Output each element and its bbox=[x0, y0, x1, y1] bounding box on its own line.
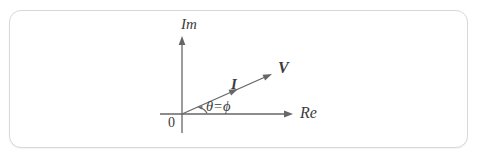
re-axis-arrowhead bbox=[284, 111, 293, 118]
phasor-diagram-canvas bbox=[0, 0, 482, 159]
im-axis-arrowhead bbox=[179, 36, 186, 45]
phasor-diagram: Im Re 0 I V θ=ϕ bbox=[0, 0, 482, 159]
im-axis-label: Im bbox=[181, 17, 197, 32]
re-axis-label: Re bbox=[300, 105, 317, 121]
angle-label: θ=ϕ bbox=[206, 99, 230, 114]
current-phasor-label: I bbox=[231, 77, 237, 92]
voltage-phasor-label: V bbox=[278, 60, 289, 76]
origin-label: 0 bbox=[168, 116, 175, 130]
voltage-phasor-arrowhead bbox=[263, 74, 273, 81]
